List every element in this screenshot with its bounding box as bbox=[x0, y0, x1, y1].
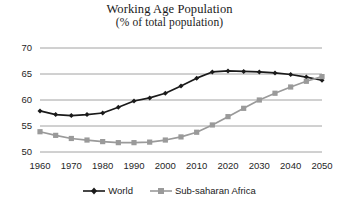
chart-svg bbox=[0, 0, 339, 207]
series-line-world bbox=[40, 71, 322, 116]
data-point bbox=[257, 97, 262, 102]
x-axis-tick-label: 2040 bbox=[274, 160, 308, 171]
data-point bbox=[241, 106, 246, 111]
series-layer bbox=[37, 68, 324, 145]
data-point bbox=[178, 134, 183, 139]
data-point bbox=[53, 133, 58, 138]
data-point bbox=[85, 112, 90, 117]
x-axis-tick-label: 1960 bbox=[23, 160, 57, 171]
x-axis-tick-label: 2030 bbox=[242, 160, 276, 171]
x-axis-tick-label: 1980 bbox=[86, 160, 120, 171]
data-point bbox=[288, 72, 293, 77]
y-axis-tick-label: 55 bbox=[6, 120, 32, 131]
data-point bbox=[131, 140, 136, 145]
y-axis-tick-label: 65 bbox=[6, 68, 32, 79]
data-point bbox=[304, 79, 309, 84]
data-point bbox=[163, 137, 168, 142]
data-point bbox=[132, 99, 137, 104]
data-point bbox=[288, 84, 293, 89]
data-point bbox=[210, 122, 215, 127]
data-point bbox=[69, 113, 74, 118]
x-axis-tick-label: 2050 bbox=[305, 160, 339, 171]
x-axis-tick-label: 1990 bbox=[117, 160, 151, 171]
data-point bbox=[194, 130, 199, 135]
legend-label-world: World bbox=[108, 185, 133, 196]
data-point bbox=[273, 70, 278, 75]
data-point bbox=[319, 74, 324, 79]
subsaharan-marker-icon bbox=[150, 186, 172, 196]
chart-container: Working Age Population (% of total popul… bbox=[0, 0, 339, 207]
x-axis-tick-label: 1970 bbox=[54, 160, 88, 171]
data-point bbox=[38, 108, 43, 113]
data-point bbox=[84, 137, 89, 142]
y-axis-tick-label: 70 bbox=[6, 42, 32, 53]
data-point bbox=[147, 140, 152, 145]
data-point bbox=[37, 129, 42, 134]
y-axis-tick-label: 50 bbox=[6, 146, 32, 157]
x-axis-tick-label: 2020 bbox=[211, 160, 245, 171]
x-axis-tick-label: 2010 bbox=[180, 160, 214, 171]
data-point bbox=[272, 91, 277, 96]
x-axis-tick-label: 2000 bbox=[148, 160, 182, 171]
plot-area bbox=[0, 0, 339, 207]
chart-legend: World Sub-saharan Africa bbox=[0, 185, 339, 196]
y-axis-tick-label: 60 bbox=[6, 94, 32, 105]
data-point bbox=[116, 105, 121, 110]
legend-label-subsaharan-africa: Sub-saharan Africa bbox=[175, 185, 256, 196]
data-point bbox=[116, 140, 121, 145]
data-point bbox=[225, 114, 230, 119]
data-point bbox=[100, 139, 105, 144]
legend-item-subsaharan-africa[interactable]: Sub-saharan Africa bbox=[150, 185, 256, 196]
legend-item-world[interactable]: World bbox=[83, 185, 133, 196]
data-point bbox=[69, 136, 74, 141]
data-point bbox=[53, 112, 58, 117]
world-marker-icon bbox=[83, 186, 105, 196]
data-point bbox=[241, 69, 246, 74]
data-point bbox=[226, 68, 231, 73]
data-point bbox=[100, 111, 105, 116]
